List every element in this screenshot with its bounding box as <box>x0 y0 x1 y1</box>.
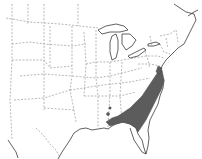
lake-michigan <box>110 34 118 60</box>
range-map <box>0 0 202 159</box>
map-background <box>0 0 202 159</box>
